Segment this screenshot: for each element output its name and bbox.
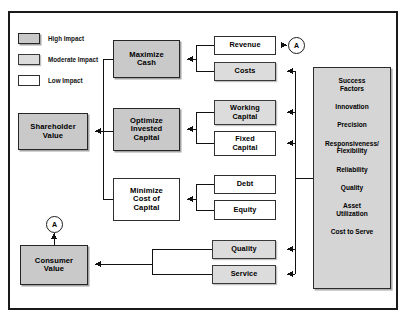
success-factors-panel: SuccessFactors Innovation Precision Resp… xyxy=(313,67,391,289)
node-minimize-cost-of-capital[interactable]: MinimizeCost ofCapital xyxy=(113,178,180,221)
legend-swatch-high-icon xyxy=(18,33,40,44)
node-working-capital[interactable]: WorkingCapital xyxy=(214,100,276,125)
legend-swatch-moderate-icon xyxy=(18,54,40,65)
legend-swatch-low-icon xyxy=(18,75,40,86)
node-fixed-capital[interactable]: FixedCapital xyxy=(214,131,276,156)
success-factors-heading: SuccessFactors xyxy=(314,77,390,93)
connector-a-bottom[interactable]: A xyxy=(46,216,63,233)
legend-label-high: High Impact xyxy=(48,35,84,42)
success-factor-quality: Quality xyxy=(314,184,390,192)
success-factor-innovation: Innovation xyxy=(314,103,390,111)
legend-item-moderate: Moderate Impact xyxy=(18,51,128,67)
node-maximize-cash[interactable]: MaximizeCash xyxy=(113,40,180,78)
diagram-canvas: High Impact Moderate Impact Low Impact S… xyxy=(0,0,412,321)
legend-label-low: Low Impact xyxy=(48,77,83,84)
node-revenue[interactable]: Revenue xyxy=(214,36,276,55)
node-consumer-value[interactable]: ConsumerValue xyxy=(20,245,88,285)
node-costs[interactable]: Costs xyxy=(214,62,276,81)
success-factor-precision: Precision xyxy=(314,121,390,129)
connector-a-top[interactable]: A xyxy=(288,37,305,54)
node-quality[interactable]: Quality xyxy=(212,240,276,259)
success-factor-responsiveness-flexibility: Responsiveness/Flexibility xyxy=(314,140,390,156)
legend: High Impact Moderate Impact Low Impact xyxy=(18,30,128,93)
success-factor-cost-to-serve: Cost to Serve xyxy=(314,228,390,236)
node-optimize-invested-capital[interactable]: OptimizeInvestedCapital xyxy=(113,108,180,151)
success-factor-asset-utilization: AssetUtilization xyxy=(314,202,390,218)
legend-item-high: High Impact xyxy=(18,30,128,46)
node-service[interactable]: Service xyxy=(212,265,276,284)
node-shareholder-value[interactable]: ShareholderValue xyxy=(18,113,88,150)
node-equity[interactable]: Equity xyxy=(214,200,276,220)
node-debt[interactable]: Debt xyxy=(214,175,276,194)
legend-item-low: Low Impact xyxy=(18,72,128,88)
legend-label-moderate: Moderate Impact xyxy=(48,56,98,63)
success-factor-reliability: Reliability xyxy=(314,166,390,174)
